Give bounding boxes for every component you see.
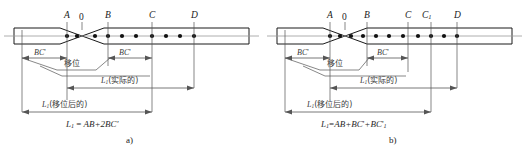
formula-b: L1=AB+BC'+BC'1: [321, 120, 387, 129]
dim-label-l1-actual: L1(实际的): [101, 77, 138, 86]
point-label-0: 0: [342, 13, 347, 23]
formula-a: L1 = AB+2BC': [66, 120, 119, 129]
dim-l1-actual: [67, 86, 194, 91]
dim-l1-shifted: [285, 110, 431, 115]
dim-label-bc-left: BC': [34, 49, 46, 57]
point-label-c: C: [405, 11, 411, 21]
diagram-panel-a: A 0 B C D BC' BC' 移位 L1(实际的) L1(移位后的) L1…: [0, 0, 263, 152]
dim-label-l1-actual: L1(实际的): [360, 77, 397, 86]
point-label-0: 0: [79, 13, 84, 23]
point-label-b: B: [105, 11, 111, 21]
neck-leader-lower: [40, 66, 150, 76]
point-label-d: D: [191, 11, 198, 21]
figure-root: A 0 B C D BC' BC' 移位 L1(实际的) L1(移位后的) L1…: [0, 0, 526, 152]
dim-label-bc-right: BC': [377, 49, 389, 57]
neck-label: 移位: [327, 60, 343, 68]
point-label-c: C: [149, 11, 155, 21]
dim-l1-actual: [330, 86, 457, 91]
neck-leader-lower: [303, 66, 406, 76]
point-label-a: A: [327, 11, 333, 21]
point-label-c1: C1: [422, 11, 432, 21]
caption-a: a): [126, 136, 133, 145]
diagram-panel-b: A 0 B C C1 D BC' BC' 移位 L1(实际的) L1(移位后的)…: [263, 0, 526, 152]
neck-label: 移位: [64, 60, 80, 68]
dim-l1-shifted: [22, 110, 152, 115]
caption-b: b): [389, 136, 397, 145]
dim-label-l1-shifted: L1(移位后的): [307, 101, 352, 110]
point-label-b: B: [364, 11, 370, 21]
dim-label-l1-shifted: L1(移位后的): [42, 101, 87, 110]
point-label-d: D: [454, 11, 461, 21]
dim-label-bc-left: BC': [297, 49, 309, 57]
point-label-a: A: [64, 11, 70, 21]
dim-label-bc-right: BC': [119, 49, 131, 57]
